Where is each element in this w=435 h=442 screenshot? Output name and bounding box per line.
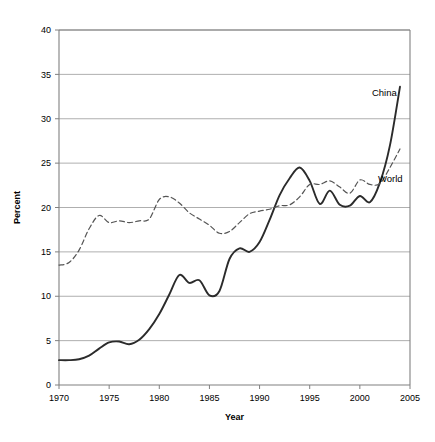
- y-axis-tick-labels: 0510152025303540: [41, 25, 51, 390]
- x-tick-label: 2000: [350, 393, 370, 403]
- y-tick-label: 40: [41, 25, 51, 35]
- x-tick-label: 2005: [400, 393, 420, 403]
- y-tick-label: 30: [41, 114, 51, 124]
- series-label-world: World: [378, 173, 403, 184]
- axis-ticks: [55, 30, 410, 389]
- y-tick-label: 20: [41, 203, 51, 213]
- x-tick-label: 1995: [300, 393, 320, 403]
- y-axis-title: Percent: [12, 191, 22, 224]
- x-tick-label: 1990: [250, 393, 270, 403]
- series-label-china: China: [372, 87, 398, 98]
- series-line-china: [59, 87, 400, 360]
- line-chart: 0510152025303540 19701975198019851990199…: [0, 0, 435, 442]
- x-axis-tick-labels: 19701975198019851990199520002005: [49, 393, 420, 403]
- x-tick-label: 1975: [99, 393, 119, 403]
- chart-canvas: 0510152025303540 19701975198019851990199…: [0, 0, 435, 442]
- y-tick-label: 10: [41, 291, 51, 301]
- gridlines: [59, 30, 410, 341]
- y-tick-label: 5: [46, 336, 51, 346]
- y-tick-label: 35: [41, 70, 51, 80]
- x-tick-label: 1970: [49, 393, 69, 403]
- y-tick-label: 0: [46, 380, 51, 390]
- x-tick-label: 1980: [149, 393, 169, 403]
- x-axis-title: Year: [225, 412, 245, 422]
- data-series: [59, 87, 400, 360]
- x-tick-label: 1985: [199, 393, 219, 403]
- y-tick-label: 15: [41, 247, 51, 257]
- y-tick-label: 25: [41, 158, 51, 168]
